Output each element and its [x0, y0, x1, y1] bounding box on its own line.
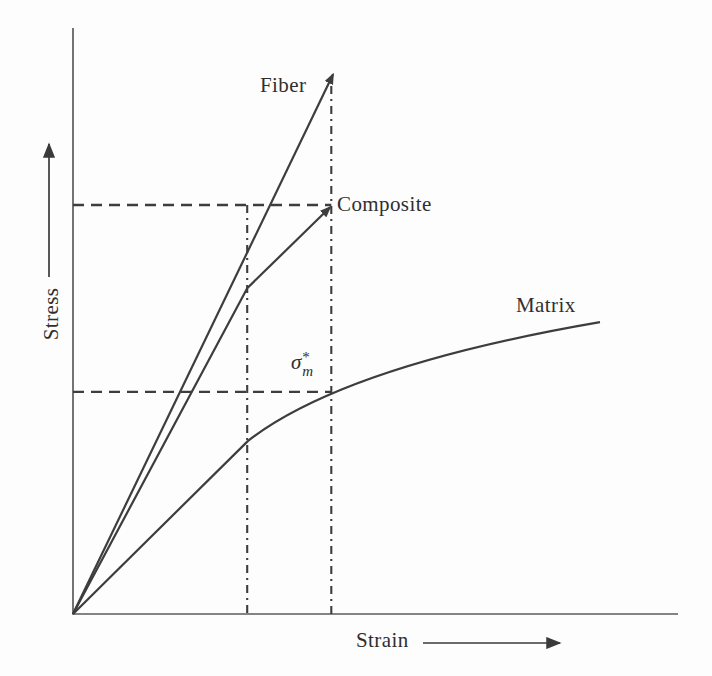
sigma-subscript: m: [302, 364, 313, 379]
plot-axes: [73, 28, 678, 614]
matrix-curve-label: Matrix: [516, 294, 576, 316]
stress-strain-diagram: Stress Strain Fiber Composite Matrix σ *…: [0, 0, 712, 676]
stress-strain-plot: [0, 0, 712, 676]
sigma-superscript: *: [302, 353, 310, 362]
sigma-supsub: * m: [302, 352, 313, 379]
fiber-curve-label: Fiber: [260, 74, 306, 96]
sigma-glyph: σ: [291, 352, 301, 373]
fiber-curve: [73, 74, 333, 614]
composite-curve: [73, 207, 330, 614]
y-axis-label: Stress: [40, 288, 62, 341]
composite-curve-label: Composite: [337, 193, 432, 215]
sigma-m-star-label: σ * m: [291, 352, 313, 379]
x-axis-label: Strain: [356, 629, 409, 651]
curves-group: [73, 74, 600, 614]
